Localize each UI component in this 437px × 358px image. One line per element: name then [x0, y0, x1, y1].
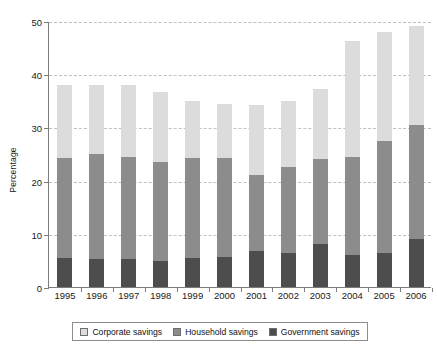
bar-segment-corporate-savings — [249, 105, 264, 176]
bar-2002 — [281, 101, 296, 287]
legend-label: Household savings — [185, 327, 258, 337]
x-tick-label-1995: 1995 — [54, 290, 75, 301]
x-tick-mark — [272, 288, 273, 292]
gridline — [49, 128, 431, 129]
x-tick-label-2004: 2004 — [342, 290, 363, 301]
x-tick-mark — [209, 288, 210, 292]
y-tick-label: 50 — [31, 17, 42, 28]
bar-segment-government-savings — [153, 261, 168, 287]
bar-segment-corporate-savings — [89, 85, 104, 154]
x-tick-mark — [368, 288, 369, 292]
bar-segment-household-savings — [121, 157, 136, 259]
bar-segment-government-savings — [377, 253, 392, 287]
x-tick-label-2006: 2006 — [405, 290, 426, 301]
y-tick-label: 20 — [31, 176, 42, 187]
x-tick-label-2005: 2005 — [374, 290, 395, 301]
y-axis-title-label: Percentage — [8, 147, 18, 192]
x-tick-mark — [432, 288, 433, 292]
bar-segment-corporate-savings — [409, 26, 424, 124]
bar-segment-household-savings — [313, 159, 328, 244]
bar-1996 — [89, 85, 104, 287]
legend-item-government-savings[interactable]: Government savings — [269, 327, 360, 337]
y-tick-mark — [44, 75, 48, 76]
x-tick-mark — [81, 288, 82, 292]
bar-segment-household-savings — [153, 162, 168, 261]
bar-stack — [153, 92, 168, 287]
bar-stack — [281, 101, 296, 287]
gridline — [49, 75, 431, 76]
bar-segment-corporate-savings — [57, 85, 72, 158]
bar-1997 — [121, 85, 136, 287]
bar-segment-household-savings — [281, 167, 296, 254]
bar-stack — [313, 89, 328, 287]
bar-segment-government-savings — [313, 244, 328, 287]
bar-2004 — [345, 41, 360, 287]
bar-stack — [185, 101, 200, 287]
bar-segment-government-savings — [185, 258, 200, 287]
bar-segment-corporate-savings — [153, 92, 168, 162]
x-tick-mark — [304, 288, 305, 292]
x-tick-label-1997: 1997 — [118, 290, 139, 301]
bar-1998 — [153, 92, 168, 287]
y-tick-label: 30 — [31, 123, 42, 134]
x-tick-mark — [400, 288, 401, 292]
x-tick-label-2003: 2003 — [310, 290, 331, 301]
legend-swatch-icon — [80, 328, 88, 336]
bar-segment-corporate-savings — [185, 101, 200, 157]
bar-segment-household-savings — [217, 158, 232, 257]
bar-stack — [121, 85, 136, 287]
bar-segment-corporate-savings — [217, 104, 232, 158]
x-tick-mark — [336, 288, 337, 292]
legend-label: Government savings — [281, 327, 360, 337]
y-tick-label: 40 — [31, 70, 42, 81]
y-tick-mark — [44, 182, 48, 183]
y-axis-title: Percentage — [2, 120, 24, 220]
bar-1999 — [185, 101, 200, 287]
x-tick-mark — [241, 288, 242, 292]
x-tick-mark — [145, 288, 146, 292]
bar-segment-corporate-savings — [345, 41, 360, 157]
x-tick-label-2002: 2002 — [278, 290, 299, 301]
bar-2005 — [377, 32, 392, 287]
x-tick-label-1998: 1998 — [150, 290, 171, 301]
bar-segment-government-savings — [409, 239, 424, 287]
stacked-bar-chart: Percentage 01020304050 19951996199719981… — [0, 0, 437, 358]
x-tick-mark — [113, 288, 114, 292]
bar-segment-household-savings — [57, 158, 72, 258]
bar-segment-government-savings — [217, 257, 232, 287]
legend-item-household-savings[interactable]: Household savings — [173, 327, 258, 337]
bar-segment-corporate-savings — [281, 101, 296, 167]
chart-legend: Corporate savingsHousehold savingsGovern… — [72, 322, 368, 341]
y-tick-label: 10 — [31, 229, 42, 240]
x-tick-label-1996: 1996 — [86, 290, 107, 301]
bar-segment-government-savings — [249, 251, 264, 287]
bar-segment-government-savings — [281, 253, 296, 287]
y-tick-label: 0 — [37, 283, 42, 294]
bar-segment-government-savings — [89, 259, 104, 287]
y-tick-mark — [44, 288, 48, 289]
y-axis-line — [48, 22, 49, 289]
bar-stack — [409, 26, 424, 287]
x-tick-label-2001: 2001 — [246, 290, 267, 301]
bar-segment-corporate-savings — [377, 32, 392, 141]
bar-2001 — [249, 105, 264, 287]
bar-segment-household-savings — [409, 125, 424, 239]
y-tick-mark — [44, 22, 48, 23]
legend-item-corporate-savings[interactable]: Corporate savings — [80, 327, 162, 337]
bar-stack — [89, 85, 104, 287]
legend-swatch-icon — [173, 328, 181, 336]
bar-segment-government-savings — [121, 259, 136, 287]
plot-area: 01020304050 — [48, 22, 431, 288]
bar-segment-household-savings — [377, 141, 392, 254]
bar-segment-household-savings — [185, 158, 200, 258]
bar-1995 — [57, 85, 72, 287]
x-tick-label-1999: 1999 — [182, 290, 203, 301]
gridline — [49, 182, 431, 183]
gridline — [49, 22, 431, 23]
bar-stack — [377, 32, 392, 287]
gridline — [49, 235, 431, 236]
bar-2006 — [409, 26, 424, 287]
bar-segment-government-savings — [57, 258, 72, 287]
bar-stack — [345, 41, 360, 287]
bar-segment-government-savings — [345, 255, 360, 287]
